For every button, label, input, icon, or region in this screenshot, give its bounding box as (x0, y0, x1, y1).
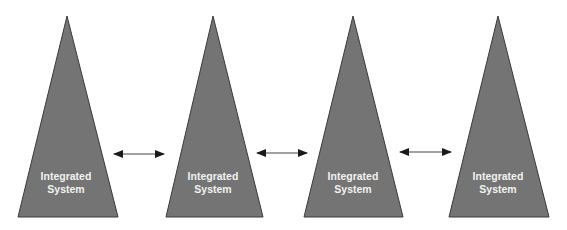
node-label-system-1: Integrated System (21, 170, 111, 196)
node-label-system-4: Integrated System (453, 170, 543, 196)
label-line-2: System (168, 183, 258, 196)
label-line-1: Integrated (453, 170, 543, 183)
label-line-1: Integrated (168, 170, 258, 183)
label-line-2: System (453, 183, 543, 196)
node-label-system-2: Integrated System (168, 170, 258, 196)
label-line-2: System (308, 183, 398, 196)
label-line-1: Integrated (21, 170, 111, 183)
label-line-2: System (21, 183, 111, 196)
label-line-1: Integrated (308, 170, 398, 183)
node-label-system-3: Integrated System (308, 170, 398, 196)
